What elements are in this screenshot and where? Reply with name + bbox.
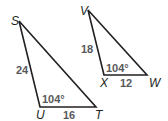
vertex-label-w: W: [149, 76, 162, 90]
vertex-label-x: X: [99, 76, 109, 90]
angle-label-u: 104°: [42, 93, 65, 105]
similar-triangles-figure: S U T 24 16 104° V X W 18 12 104°: [0, 0, 168, 121]
side-label-su: 24: [16, 64, 29, 76]
side-label-xw: 12: [120, 77, 132, 89]
figure-svg: S U T 24 16 104° V X W 18 12 104°: [0, 0, 168, 121]
side-label-vx: 18: [81, 43, 93, 55]
vertex-label-u: U: [36, 108, 45, 121]
vertex-label-t: T: [95, 108, 104, 121]
vertex-label-v: V: [80, 4, 89, 18]
side-label-ut: 16: [63, 109, 75, 121]
vertex-label-s: S: [11, 14, 19, 28]
angle-label-x: 104°: [106, 62, 129, 74]
